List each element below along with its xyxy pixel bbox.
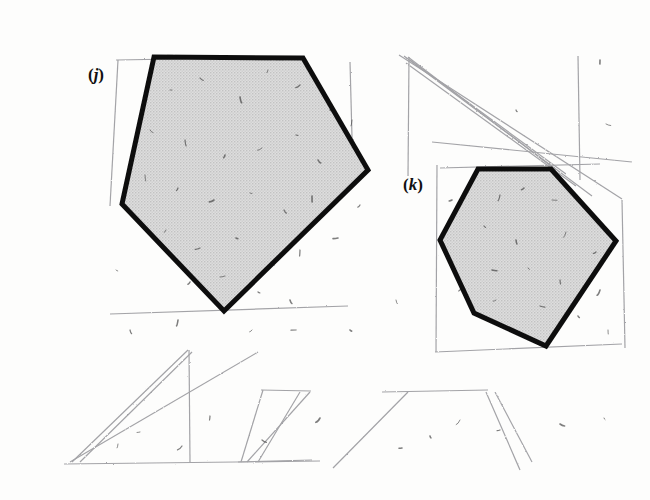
scan-speckle — [560, 280, 561, 284]
figure-canvas: (j)(k) — [0, 0, 650, 500]
scan-speckle — [516, 240, 517, 244]
scan-speckle — [449, 200, 452, 201]
label-paren-close: ) — [417, 175, 423, 194]
scan-speckle — [333, 238, 338, 239]
shape-label-k: (k) — [403, 175, 423, 194]
scan-speckle — [250, 193, 252, 194]
scan-speckle — [430, 436, 431, 438]
geometry-figure: (j)(k) — [0, 0, 650, 500]
scan-speckle — [492, 270, 497, 271]
scan-speckle — [236, 238, 238, 239]
scan-speckle — [497, 430, 500, 431]
shape-label-j: (j) — [88, 65, 104, 84]
label-paren-close: ) — [98, 65, 104, 84]
